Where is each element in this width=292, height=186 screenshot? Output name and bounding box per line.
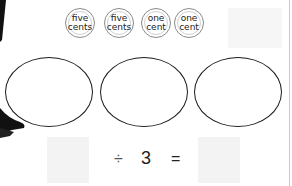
coin-five-cents[interactable]: five cents [104,8,134,38]
coin-one-cent[interactable]: one cent [174,8,204,38]
group-oval-2[interactable] [100,57,188,127]
coin-label: five cents [107,14,131,32]
divide-operator: ÷ [114,150,123,168]
divisor-value: 3 [141,148,151,169]
coin-five-cents[interactable]: five cents [65,8,95,38]
group-oval-3[interactable] [194,57,282,127]
dividend-input-slot[interactable] [47,137,89,183]
group-oval-1[interactable] [5,57,93,127]
coin-label: one cent [146,14,166,32]
equals-sign: = [171,150,180,168]
panel-border [289,0,290,186]
coin-one-cent[interactable]: one cent [141,8,171,38]
coin-label: one cent [179,14,199,32]
coin-label: five cents [68,14,92,32]
quotient-input-slot[interactable] [198,137,240,183]
coin-tray-slot[interactable] [228,8,282,48]
